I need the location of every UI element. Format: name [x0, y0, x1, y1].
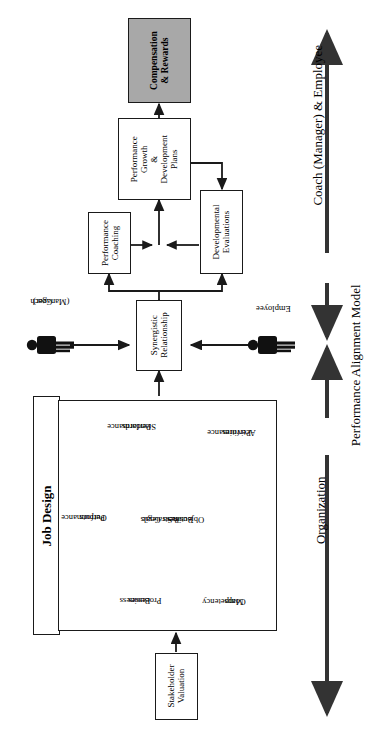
node-performance-coaching[interactable]: Performance Coaching [88, 212, 131, 274]
model-title-text: Performance Alignment Model [349, 284, 364, 446]
node-stakeholder-valuation[interactable]: Stakeholder Valuation [155, 653, 198, 720]
jd-outputs-line2: Outputs [71, 513, 115, 523]
coach-label: Coach (Manager) [22, 281, 70, 323]
axis-upper-text: Coach (Manager) & Employee [311, 45, 326, 206]
growth-line5: Plans [170, 135, 180, 184]
coaching-line2: Coaching [110, 220, 120, 266]
synergistic-line1: Synergistic [149, 313, 159, 359]
jd-competency-maps[interactable]: Competency Maps [207, 578, 251, 626]
jd-maps-line2: Maps [212, 597, 255, 607]
job-design-tab[interactable]: Job Design [33, 396, 60, 635]
jd-goals-line4: Objectives [159, 514, 212, 524]
employee-label: Employee [249, 290, 297, 326]
node-synergistic-relationship[interactable]: Synergistic Relationship [136, 300, 182, 371]
axis-upper-label: Coach (Manager) & Employee [238, 105, 389, 145]
jd-performance-outputs[interactable]: Performance Outputs [66, 495, 110, 541]
job-design-label: Job Design [39, 485, 55, 546]
compensation-line2: & Rewards [160, 31, 171, 90]
jd-performance-standards[interactable]: Performance Standards [112, 404, 156, 450]
coaching-line1: Performance [99, 220, 109, 266]
stakeholder-line1: Stakeholder [166, 665, 176, 708]
growth-line1: Performance [129, 135, 139, 184]
model-title-label: Performance Alignment Model [281, 345, 389, 385]
coach-line2: (Manager) [33, 297, 69, 307]
node-compensation-rewards[interactable]: Compensation & Rewards [128, 18, 191, 103]
coach-person-icon [26, 325, 74, 365]
node-performance-growth-development-plans[interactable]: Performance Growth & Development Plans [118, 118, 191, 200]
jd-activities-line2: Activities [217, 428, 261, 438]
jd-strategic-business-goals[interactable]: Strategic Business Goals & Objectives [148, 487, 194, 551]
axis-lower-text: Organization [314, 476, 329, 544]
jd-business-processes[interactable]: Business Processes [118, 577, 162, 625]
synergistic-line2: Relationship [159, 313, 169, 359]
node-developmental-evaluations[interactable]: Developmental Evaluations [200, 190, 243, 274]
jd-processes-line2: Processes [128, 596, 161, 606]
stakeholder-line2: Valuation [177, 665, 187, 708]
jd-standards-line2: Standards [117, 422, 161, 432]
growth-line3: & [149, 135, 159, 184]
growth-line4: Development [160, 135, 170, 184]
compensation-line1: Compensation [149, 31, 160, 90]
evaluations-line1: Developmental [211, 205, 221, 260]
diagram-canvas: Compensation & Rewards Performance Growt… [0, 0, 389, 753]
employee-line1: Employee [256, 303, 291, 313]
growth-line2: Growth [139, 135, 149, 184]
evaluations-line2: Evaluations [222, 205, 232, 260]
axis-lower-label: Organization [271, 490, 371, 530]
jd-performance-activities[interactable]: Performance Activities [212, 410, 256, 456]
